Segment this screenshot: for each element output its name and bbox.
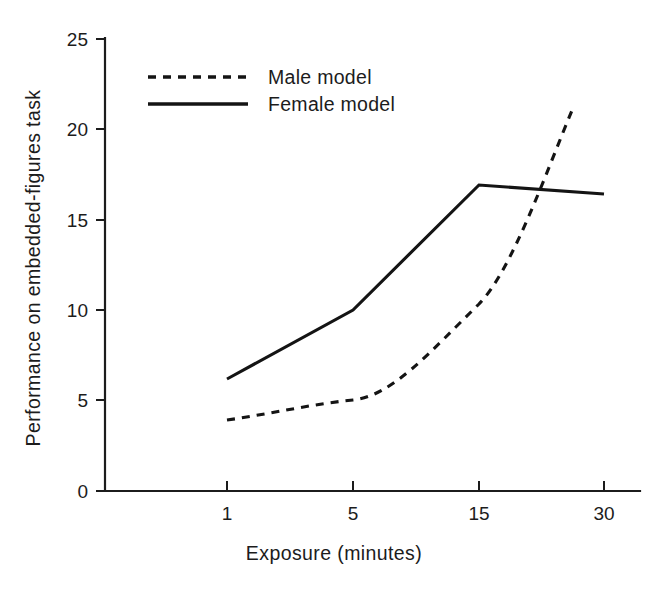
y-tick-label-25: 25 (67, 29, 88, 50)
y-tick-label-20: 20 (67, 119, 88, 140)
line-chart: 25 20 15 10 5 0 1 5 15 30 (0, 0, 669, 592)
legend-label-female-model: Female model (268, 93, 395, 115)
y-tick-label-0: 0 (77, 481, 88, 502)
series-group (227, 108, 604, 420)
y-tick-labels: 25 20 15 10 5 0 (67, 29, 88, 502)
y-tick-label-15: 15 (67, 210, 88, 231)
series-female-model-line (227, 185, 604, 379)
x-tick-marks (227, 481, 604, 491)
y-axis-title: Performance on embedded-figures task (22, 90, 44, 447)
legend: Male model Female model (148, 66, 395, 115)
x-tick-label-5: 5 (348, 503, 359, 524)
x-axis-title: Exposure (minutes) (246, 542, 422, 564)
x-tick-labels: 1 5 15 30 (222, 503, 615, 524)
chart-figure: 25 20 15 10 5 0 1 5 15 30 (0, 0, 669, 592)
y-tick-label-10: 10 (67, 300, 88, 321)
y-tick-label-5: 5 (77, 390, 88, 411)
legend-label-male-model: Male model (268, 66, 372, 88)
x-tick-label-15: 15 (468, 503, 489, 524)
y-tick-marks (96, 39, 105, 491)
x-tick-label-1: 1 (222, 503, 233, 524)
x-tick-label-30: 30 (593, 503, 614, 524)
